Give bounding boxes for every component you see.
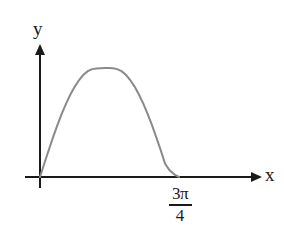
x-tick-label-3pi-over-4: 3π 4 — [165, 186, 195, 224]
y-axis-arrow-icon — [35, 44, 45, 55]
sine-curve — [40, 68, 179, 177]
x-axis-label: x — [265, 165, 275, 184]
fraction-denominator: 4 — [176, 208, 185, 224]
y-axis-label: y — [33, 19, 43, 38]
graph-figure: y x 3π 4 — [0, 0, 284, 232]
fraction-numerator: 3π — [172, 186, 188, 202]
x-axis-arrow-icon — [251, 172, 262, 182]
